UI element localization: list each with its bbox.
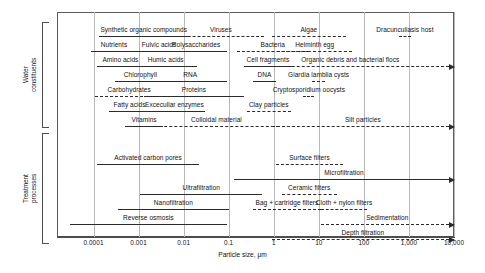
range-arrow-icon	[449, 237, 455, 243]
range-bar	[99, 36, 189, 37]
range-entry: Synthetic organic compounds	[99, 24, 189, 37]
range-bar	[399, 36, 411, 37]
x-tick-label: 0.01	[177, 239, 190, 246]
range-entry: Activated carbon pores	[97, 152, 199, 165]
range-label: Silt particles	[345, 116, 381, 123]
range-bar	[91, 51, 136, 52]
range-bar	[253, 209, 320, 210]
range-entry: Surface filters	[276, 152, 344, 165]
range-label: Activated carbon pores	[114, 154, 182, 161]
range-bar	[134, 66, 197, 67]
range-bar	[70, 224, 227, 225]
range-label: Cloth + nylon filters	[316, 199, 373, 206]
range-bar	[272, 126, 454, 127]
range-label: Giardia lamblia cysts	[288, 71, 349, 78]
x-tick-label: 10	[315, 239, 322, 246]
range-label: Synthetic organic compounds	[100, 26, 187, 33]
range-bar	[253, 81, 275, 82]
x-tick-label: 1	[272, 239, 276, 246]
range-label: Bag + cartridge filters	[256, 199, 319, 206]
range-label: Excecullar enzymes	[145, 101, 204, 108]
range-bar	[276, 164, 344, 165]
range-entry: Cryptosporidium oocysts	[303, 84, 314, 97]
range-label: Amino acids	[102, 56, 138, 63]
range-bar	[144, 96, 244, 97]
range-label: Ceramic filters	[288, 184, 330, 191]
range-bar	[118, 209, 229, 210]
range-label: Nutrients	[101, 41, 127, 48]
range-entry: Helminth egg	[277, 39, 352, 52]
bracket-label-water-constituents: Water constituents	[22, 22, 38, 128]
range-entry: Viruses	[178, 24, 264, 37]
range-bar	[272, 239, 454, 240]
range-label: Fatty acids	[113, 101, 145, 108]
range-entry: Humic acids	[134, 54, 197, 67]
range-label: Cryptosporidium oocysts	[273, 86, 345, 93]
range-label: Clay particles	[249, 101, 289, 108]
range-label: Colloidal material	[191, 116, 242, 123]
range-entry: Organic debris and bacterial flocs	[247, 54, 454, 67]
range-bar	[312, 81, 326, 82]
range-entry: DNA	[253, 69, 275, 82]
range-label: Microfiltration	[324, 169, 363, 176]
x-tick-label: 0.0001	[83, 239, 103, 246]
range-entry: Dracunculiasis host	[399, 24, 411, 37]
range-bar	[247, 66, 454, 67]
bracket-treatment-processes	[42, 133, 49, 244]
range-label: Proteins	[182, 86, 206, 93]
range-entry: Nutrients	[91, 39, 136, 52]
range-label: Depth filtration	[341, 229, 384, 236]
range-entry: Microfiltration	[234, 167, 454, 180]
range-entry: Nanofiltration	[118, 197, 229, 210]
range-entry: Polysaccharides	[166, 39, 227, 52]
range-bar	[166, 51, 227, 52]
x-tick-label: 1,000	[401, 239, 418, 246]
range-bar	[277, 51, 352, 52]
range-entry: Giardia lamblia cysts	[312, 69, 326, 82]
range-entry: Silt particles	[272, 114, 454, 127]
range-entry: Excecullar enzymes	[144, 99, 205, 112]
range-bar	[234, 179, 454, 180]
range-bar	[144, 111, 205, 112]
range-bar	[247, 111, 291, 112]
range-label: Algae	[300, 26, 317, 33]
range-arrow-icon	[449, 64, 455, 70]
range-label: Nanofiltration	[154, 199, 193, 206]
range-bar	[97, 164, 199, 165]
range-label: Surface filters	[289, 154, 330, 161]
range-entry: Clay particles	[247, 99, 291, 112]
range-entry: Colloidal material	[154, 114, 279, 127]
range-bar	[154, 126, 279, 127]
range-bar	[282, 194, 337, 195]
x-tick-label: 0.001	[130, 239, 147, 246]
range-label: Ultrafiltration	[183, 184, 220, 191]
range-entry: Sedimentation	[321, 212, 454, 225]
x-tick-label: 100	[358, 239, 369, 246]
range-entry: Reverse osmosis	[70, 212, 227, 225]
x-axis-title: Particle size, μm	[0, 251, 485, 258]
range-entry: Bag + cartridge filters	[253, 197, 320, 210]
range-entry: Ceramic filters	[282, 182, 337, 195]
range-label: Viruses	[210, 26, 232, 33]
range-label: Humic acids	[148, 56, 184, 63]
range-label: Polysaccharides	[172, 41, 220, 48]
range-arrow-icon	[449, 124, 455, 130]
range-label: RNA	[183, 71, 197, 78]
range-entry: Ultrafiltration	[140, 182, 262, 195]
range-label: Reverse osmosis	[123, 214, 174, 221]
range-arrow-icon	[449, 177, 455, 183]
range-label: Sedimentation	[366, 214, 408, 221]
range-label: Chlorophyll	[124, 71, 157, 78]
range-label: Vitamins	[131, 116, 156, 123]
range-label: Organic debris and bacterial flocs	[301, 56, 399, 63]
range-label: Dracunculiasis host	[376, 26, 433, 33]
range-label: DNA	[257, 71, 271, 78]
range-bar	[140, 194, 262, 195]
range-entry: Proteins	[144, 84, 244, 97]
range-entry: Cloth + nylon filters	[321, 197, 368, 210]
range-bar	[303, 96, 314, 97]
range-entry: Depth filtration	[272, 227, 454, 240]
range-label: Helminth egg	[295, 41, 334, 48]
range-entry: Algae	[272, 24, 346, 37]
figure-canvas: 0.00010.0010.010.11101001,00010,000 Part…	[0, 0, 485, 273]
